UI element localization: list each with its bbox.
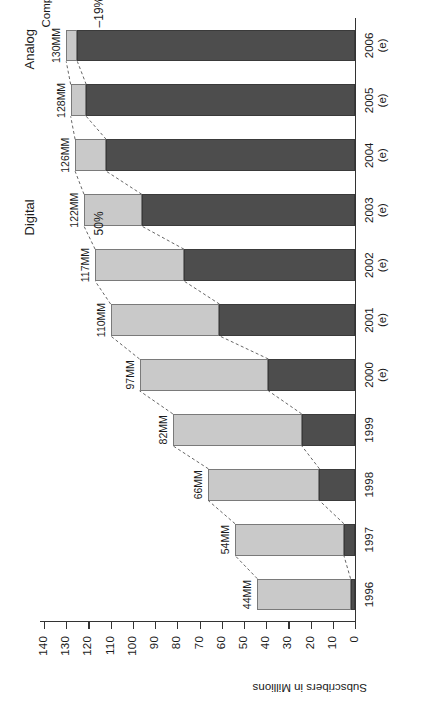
cagr-value-analog: –19% (92, 0, 106, 27)
connector-total (71, 116, 75, 139)
connector-split (142, 226, 184, 249)
connector-total (95, 281, 111, 304)
cagr-header: Compounded Annual Growth Rate (40, 0, 66, 27)
connector-total (111, 336, 140, 359)
connector-split (344, 556, 351, 579)
chart-canvas: 0102030405060708090100110120130140 Subsc… (0, 0, 425, 718)
connector-split (106, 171, 142, 194)
cagr-value-digital: 50% (92, 211, 106, 235)
connector-total (75, 171, 84, 194)
connector-split (184, 281, 220, 304)
connector-total (235, 556, 257, 579)
connector-total (208, 501, 235, 524)
legend-label-analog: Analog (22, 29, 37, 69)
legend-label-digital: Digital (22, 199, 37, 235)
connector-split (302, 446, 320, 469)
connector-split (77, 61, 86, 84)
connector-split (86, 116, 106, 139)
connector-split (219, 336, 268, 359)
plot-area: 0102030405060708090100110120130140 Subsc… (0, 0, 425, 718)
rotated-figure: 0102030405060708090100110120130140 Subsc… (0, 0, 425, 718)
connector-total (140, 391, 173, 414)
connector-split (268, 391, 301, 414)
connector-total (173, 446, 209, 469)
connector-total (66, 61, 70, 84)
connector-split (319, 501, 343, 524)
cagr-header-line1: Compounded Annual (40, 0, 52, 27)
trend-connector-lines (0, 0, 425, 718)
